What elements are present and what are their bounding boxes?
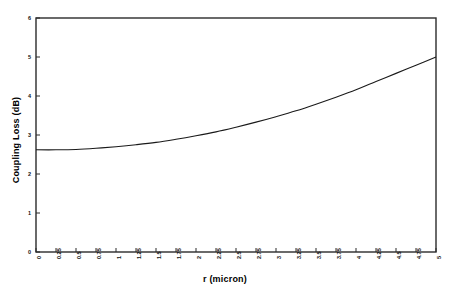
chart-figure: Coupling Loss (dB) r (micron) 0123456 00…	[0, 0, 450, 295]
coupling-loss-curve	[36, 57, 436, 150]
x-tick-label: 2.75	[256, 248, 262, 259]
x-tick-label: 1	[116, 256, 122, 259]
plot-area	[0, 0, 450, 295]
x-tick-label: 0.75	[96, 248, 102, 259]
x-tick-label: 1.5	[156, 251, 162, 259]
x-tick-label: 3.25	[296, 248, 302, 259]
plot-frame	[36, 18, 436, 252]
axes-frame	[36, 18, 436, 252]
x-tick-label: 0	[36, 256, 42, 259]
x-tick-label: 1.75	[176, 248, 182, 259]
x-tick-label: 4.5	[396, 251, 402, 259]
data-series-group	[36, 57, 436, 150]
y-tick-label: 0	[17, 249, 31, 255]
x-tick-label: 3	[276, 256, 282, 259]
x-tick-label: 3.75	[336, 248, 342, 259]
y-tick-label: 1	[17, 210, 31, 216]
x-tick-label: 2.25	[216, 248, 222, 259]
x-tick-label: 4.75	[416, 248, 422, 259]
y-tick-label: 5	[17, 54, 31, 60]
y-tick-label: 3	[17, 132, 31, 138]
y-tick-label: 2	[17, 171, 31, 177]
y-tick-label: 6	[17, 15, 31, 21]
x-tick-label: 4	[356, 256, 362, 259]
x-tick-label: 2.5	[236, 251, 242, 259]
x-tick-label: 0.25	[56, 248, 62, 259]
x-tick-label: 4.25	[376, 248, 382, 259]
x-tick-label: 1.25	[136, 248, 142, 259]
x-tick-label: 3.5	[316, 251, 322, 259]
y-tick-label: 4	[17, 93, 31, 99]
x-tick-label: 0.5	[76, 251, 82, 259]
x-tick-label: 5	[436, 256, 442, 259]
x-tick-label: 2	[196, 256, 202, 259]
